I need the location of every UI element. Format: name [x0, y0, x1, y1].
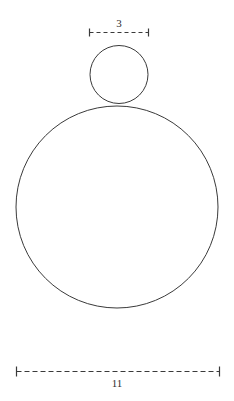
diagram-background: [0, 0, 234, 401]
geometry-diagram: [0, 0, 234, 401]
small-circle-dimension-label: 3: [99, 18, 139, 29]
large-circle-dimension-label: 11: [97, 378, 137, 389]
